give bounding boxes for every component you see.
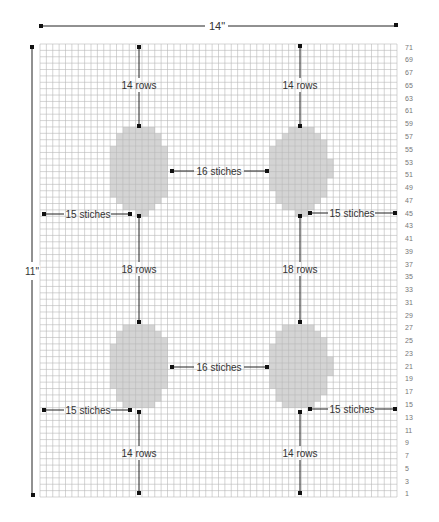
width-dimension: 14" xyxy=(39,20,398,32)
row-number: 65 xyxy=(405,82,413,89)
row-number: 35 xyxy=(405,273,413,280)
stitches-label-bottom-between: 16 stiches xyxy=(196,362,241,373)
row-number: 31 xyxy=(405,299,413,306)
stitches-label-lower-right: 15 stiches xyxy=(329,404,374,415)
row-number: 33 xyxy=(405,286,413,293)
row-number: 11 xyxy=(405,427,412,434)
row-number: 53 xyxy=(405,159,413,166)
rows-label-middle-right: 18 rows xyxy=(282,264,317,275)
row-number: 37 xyxy=(405,261,413,268)
rows-label-top-left: 14 rows xyxy=(121,80,156,91)
row-number: 41 xyxy=(405,235,413,242)
row-number-labels: 7169676563615957555351494745434139373533… xyxy=(405,44,413,498)
row-number: 59 xyxy=(405,120,413,127)
row-number: 7 xyxy=(405,452,409,459)
height-label: 11" xyxy=(25,266,39,277)
row-number: 17 xyxy=(405,388,413,395)
row-number: 5 xyxy=(405,465,409,472)
row-number: 3 xyxy=(405,478,409,485)
row-number: 15 xyxy=(405,401,413,408)
row-number: 67 xyxy=(405,69,413,76)
stitches-label-upper-left: 15 stiches xyxy=(65,209,110,220)
stitches-label-upper-right: 15 stiches xyxy=(329,208,374,219)
row-number: 23 xyxy=(405,350,413,357)
stitches-label-top-between: 16 stiches xyxy=(196,166,241,177)
row-number: 19 xyxy=(405,375,413,382)
rows-label-top-right: 14 rows xyxy=(282,80,317,91)
rows-label-bottom-right: 14 rows xyxy=(282,448,317,459)
row-number: 71 xyxy=(405,44,413,51)
rows-label-bottom-left: 14 rows xyxy=(121,448,156,459)
height-dimension: 11" xyxy=(25,45,39,497)
rows-label-middle-left: 18 rows xyxy=(121,264,156,275)
row-number: 39 xyxy=(405,248,413,255)
row-number: 1 xyxy=(405,490,409,497)
row-number: 55 xyxy=(405,146,413,153)
stitch-measures xyxy=(44,171,395,410)
stitch-grid xyxy=(40,44,397,497)
row-number: 69 xyxy=(405,56,413,63)
stitches-label-lower-left: 15 stiches xyxy=(65,405,110,416)
row-number: 25 xyxy=(405,337,413,344)
row-number: 51 xyxy=(405,171,413,178)
row-number: 43 xyxy=(405,222,413,229)
row-number: 13 xyxy=(405,414,413,421)
width-label: 14" xyxy=(209,20,225,32)
row-number: 61 xyxy=(405,107,413,114)
row-number: 9 xyxy=(405,439,409,446)
row-number: 27 xyxy=(405,324,413,331)
row-number: 47 xyxy=(405,197,413,204)
row-number: 29 xyxy=(405,312,413,319)
row-number: 63 xyxy=(405,95,413,102)
knitting-chart: 7169676563615957555351494745434139373533… xyxy=(0,0,439,522)
row-number: 21 xyxy=(405,363,413,370)
row-number: 45 xyxy=(405,210,413,217)
row-number: 49 xyxy=(405,184,413,191)
row-number: 57 xyxy=(405,133,413,140)
